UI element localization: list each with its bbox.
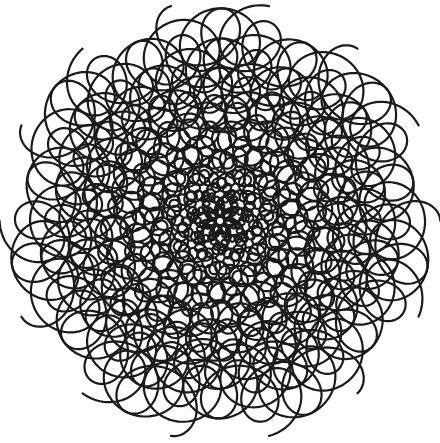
- spiral-loop-artwork: [0, 0, 440, 443]
- center-dot: [217, 218, 223, 224]
